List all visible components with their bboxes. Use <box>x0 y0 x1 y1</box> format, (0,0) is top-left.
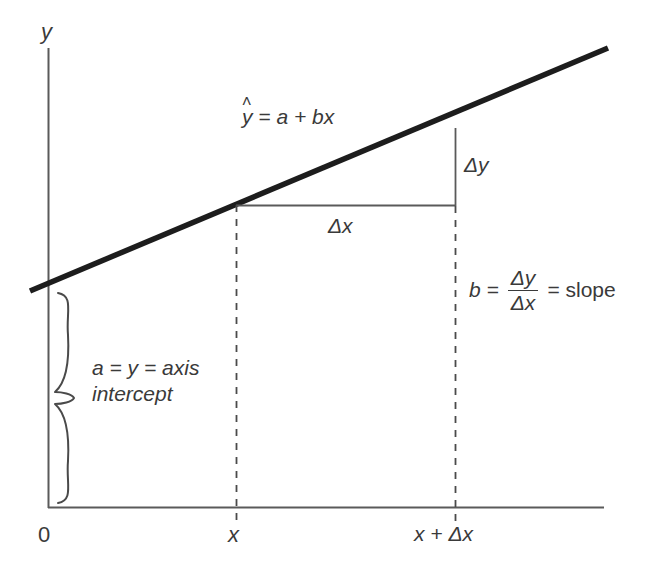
delta-x-label: Δx <box>328 213 353 239</box>
origin-tick-label: 0 <box>38 521 50 549</box>
x-tick-label: x <box>228 521 239 549</box>
intercept-brace <box>55 293 74 503</box>
regression-line-figure: y 0 x x + Δx ˄ y = a + bx Δy Δx b = Δy Δ… <box>0 0 646 576</box>
hat-accent-icon: ˄ <box>242 91 252 112</box>
slope-rhs: = slope <box>547 277 615 303</box>
equation-remainder: = a + bx <box>253 105 335 128</box>
slope-lhs: b = <box>469 277 499 303</box>
slope-formula-label: b = Δy Δx = slope <box>469 267 616 314</box>
y-axis-label: y <box>41 18 52 46</box>
y-hat-symbol: ˄ y <box>242 104 253 130</box>
slope-numerator: Δy <box>508 267 539 291</box>
regression-equation-label: ˄ y = a + bx <box>242 104 334 130</box>
x-plus-delta-x-tick-label: x + Δx <box>414 521 473 547</box>
slope-denominator: Δx <box>508 291 539 314</box>
delta-y-label: Δy <box>464 152 489 178</box>
regression-line <box>30 48 608 291</box>
intercept-label: a = y = axis intercept <box>92 355 252 408</box>
slope-fraction: Δy Δx <box>508 267 539 314</box>
